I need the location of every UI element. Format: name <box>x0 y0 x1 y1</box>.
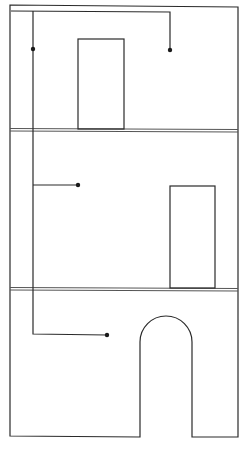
outlet-node-riser-top <box>31 47 35 51</box>
pipe-riser <box>33 11 107 335</box>
pipe-network <box>11 11 170 335</box>
pipe-top-run <box>11 11 170 50</box>
building-section-diagram <box>0 0 244 449</box>
outlet-node-bottom <box>105 333 109 337</box>
door-middle-floor <box>170 186 215 288</box>
door-top-floor <box>78 39 124 129</box>
outlet-node-middle <box>76 183 80 187</box>
outlet-node-top-right <box>168 48 172 52</box>
